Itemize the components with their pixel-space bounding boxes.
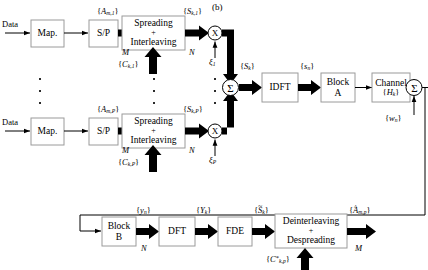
bus-code-conj-input bbox=[297, 248, 314, 270]
label-count-m-bot: M bbox=[122, 146, 129, 155]
label-data-bot: Data bbox=[2, 118, 18, 127]
label-signal-code-top: {Ck,1} bbox=[118, 60, 139, 70]
block-fde bbox=[218, 217, 252, 246]
label-signal-xi-bot: ξP bbox=[209, 156, 216, 166]
label-signal-a-hat: {^Am,p} bbox=[349, 206, 371, 216]
label-signal-s-time: {sn} bbox=[300, 62, 314, 72]
panel-label: (b) bbox=[212, 3, 223, 12]
label-signal-s-hat: {~Sk} bbox=[254, 206, 269, 216]
label-signal-a-top: {Am,1} bbox=[97, 7, 119, 17]
label-signal-s-bot: {Sk,P} bbox=[183, 105, 203, 115]
figure-diagram-panel-b: (b) Data Data Map. S/P Spreading + Inter… bbox=[0, 0, 428, 270]
label-signal-code-bot: {Ck,P} bbox=[118, 158, 139, 168]
label-count-n-top: N bbox=[189, 48, 195, 57]
bus-block-b-to-dft bbox=[136, 224, 159, 239]
label-signal-xi-top: ξ1 bbox=[209, 58, 215, 68]
operator-summation-noise bbox=[406, 80, 422, 96]
label-data-top: Data bbox=[2, 20, 18, 29]
label-count-m-top: M bbox=[122, 48, 129, 57]
bus-dft-to-fde bbox=[195, 224, 218, 239]
bus-fde-to-despread bbox=[252, 224, 275, 239]
block-despreading bbox=[275, 214, 347, 248]
label-signal-y-time: {yn} bbox=[136, 206, 151, 216]
bus-despread-output bbox=[347, 224, 376, 239]
block-dft bbox=[159, 217, 195, 246]
label-signal-noise: {wn} bbox=[385, 114, 402, 124]
label-signal-y-freq: {Yk} bbox=[196, 206, 211, 216]
block-b bbox=[102, 217, 136, 246]
label-signal-code-conj: {C*k,p} bbox=[266, 255, 290, 265]
label-count-n-rx: N bbox=[141, 244, 147, 253]
label-signal-a-bot: {Am,P} bbox=[97, 105, 119, 115]
diagram-canvas-feedback bbox=[0, 0, 428, 270]
label-count-m-rx: M bbox=[355, 244, 362, 253]
label-signal-s-top: {Sk,1} bbox=[183, 7, 202, 17]
label-count-n-bot: N bbox=[189, 146, 195, 155]
label-signal-s-sum: {Sk} bbox=[240, 62, 255, 72]
